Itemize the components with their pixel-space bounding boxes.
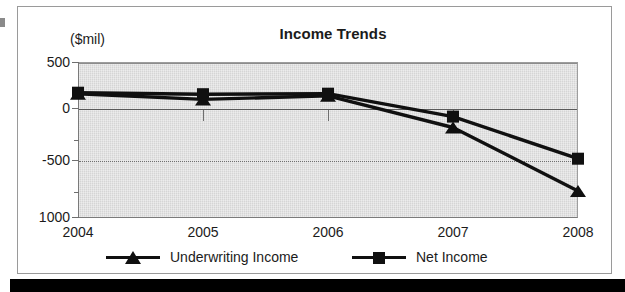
gridline-minus500 [79,161,577,162]
plot-area [78,62,578,218]
legend-label-net-income: Net Income [416,249,488,265]
x-tick-label-2004: 2004 [48,224,108,240]
y-tick-mark-minus500 [72,160,79,161]
gridline-500 [79,63,577,64]
y-tick-mark-0 [72,108,79,109]
y-tick-label-0: 0 [18,100,70,116]
y-tick-mark-250 [74,88,79,89]
x-tick-mark-2006 [328,110,329,121]
y-tick-mark-minus250 [74,140,79,141]
x-tick-label-2006: 2006 [298,224,358,240]
plot-paper-texture [79,63,577,217]
x-tick-label-2005: 2005 [173,224,233,240]
scanned-page: Income Trends ($mil) 500 0 -500 1000 200… [0,0,625,292]
y-tick-mark-minus1000 [72,217,79,218]
y-tick-label-minus1000: 1000 [18,209,70,225]
x-tick-mark-2007 [453,110,454,121]
y-tick-mark-500 [72,62,79,63]
chart-legend: Underwriting Income Net Income [100,246,530,268]
page-edge-artifact [0,18,5,27]
x-tick-label-2008: 2008 [548,224,608,240]
legend-entry-underwriting-income: Underwriting Income [106,246,298,268]
triangle-marker-icon [106,248,160,266]
y-tick-label-500: 500 [18,54,70,70]
legend-label-underwriting-income: Underwriting Income [170,249,298,265]
page-bottom-band [10,279,625,292]
chart-title: Income Trends [228,25,438,42]
legend-entry-net-income: Net Income [352,246,488,268]
y-axis-units-label: ($mil) [70,31,105,47]
x-tick-mark-2005 [203,110,204,121]
y-tick-mark-minus750 [74,192,79,193]
square-marker-icon [352,248,406,266]
x-tick-label-2007: 2007 [423,224,483,240]
gridline-minus1000 [79,217,577,218]
y-tick-label-minus500: -500 [18,152,70,168]
page-bottom-band-notch [0,279,10,292]
